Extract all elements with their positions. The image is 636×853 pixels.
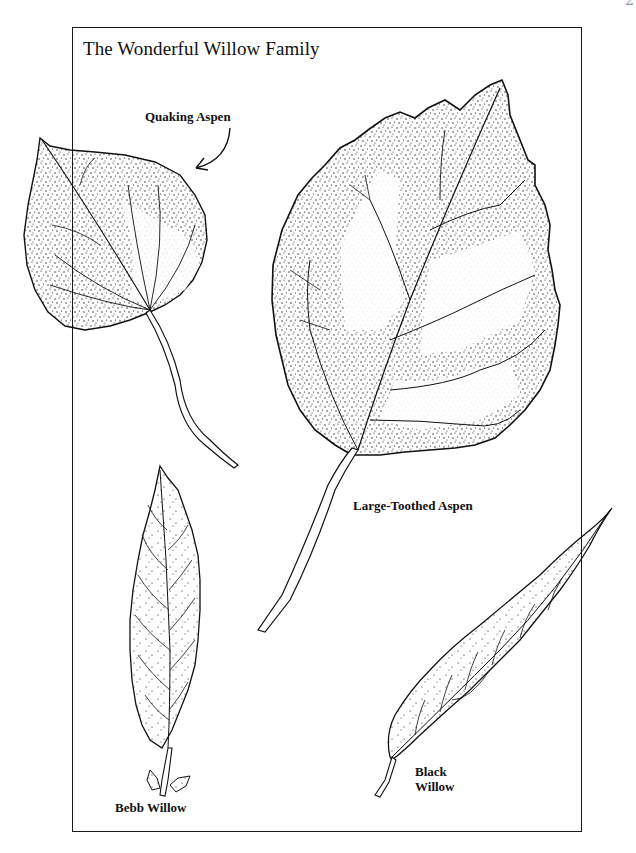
black-willow-blade	[388, 508, 612, 760]
leaf-illustrations	[0, 0, 636, 853]
black-willow-stem	[375, 757, 396, 797]
label-quaking-aspen: Quaking Aspen	[145, 109, 231, 124]
label-bebb-willow: Bebb Willow	[115, 800, 186, 815]
bebb-willow-stipule-right	[170, 776, 190, 792]
bebb-willow-stem	[160, 748, 172, 796]
large-toothed-aspen-leaf	[258, 80, 560, 632]
quaking-aspen-leaf	[24, 138, 238, 468]
label-black-willow-line1: Black	[415, 764, 475, 779]
quaking-aspen-stem	[146, 310, 238, 468]
bebb-willow-stipule-left	[147, 770, 160, 790]
black-willow-leaf	[375, 508, 612, 797]
large-toothed-aspen-stem	[258, 448, 358, 632]
label-black-willow-line2: Willow	[415, 779, 475, 794]
label-large-toothed-aspen: Large-Toothed Aspen	[353, 498, 473, 513]
label-black-willow: Black Willow	[415, 764, 475, 794]
bebb-willow-leaf	[130, 466, 200, 796]
